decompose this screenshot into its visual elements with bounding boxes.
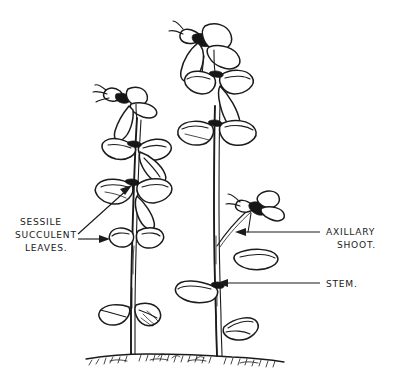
left-plant-flower (93, 85, 157, 141)
left-plant-leaf-pair-4 (99, 303, 161, 326)
stem-line-1: STEM. (326, 279, 358, 289)
label-axillary-shoot: AXILLARY SHOOT. (326, 227, 376, 250)
axillary-shoot-structure (217, 191, 284, 270)
botanical-illustration: SESSILE SUCCULENT LEAVES. AXILLARY SHOOT… (0, 0, 397, 385)
left-plant (93, 85, 172, 354)
leader-sessile-lower (78, 235, 110, 243)
sessile-line-1: SESSILE (20, 217, 62, 227)
label-stem: STEM. (326, 279, 358, 289)
axillary-line-1: AXILLARY (326, 227, 375, 237)
leader-stem (217, 279, 320, 287)
axillary-line-2: SHOOT. (337, 240, 376, 250)
left-plant-leaf-pair-1 (102, 139, 171, 183)
right-plant-leaf-pair-2 (178, 120, 256, 145)
soil-line (86, 354, 284, 367)
leader-axillary-shoot (235, 228, 320, 236)
sessile-line-3: LEAVES. (25, 243, 67, 253)
label-sessile-succulent-leaves: SESSILE SUCCULENT LEAVES. (15, 217, 77, 253)
sessile-line-2: SUCCULENT (15, 230, 77, 240)
right-plant-basal-leaf (223, 318, 258, 340)
right-plant-stem (214, 104, 222, 356)
right-plant (169, 21, 284, 356)
